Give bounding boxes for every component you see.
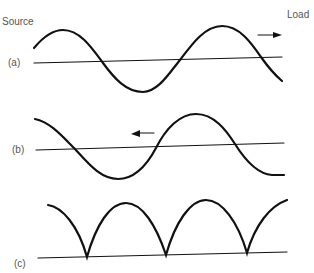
wave-a (34, 26, 282, 92)
arrowhead-right-icon (273, 32, 282, 38)
arrowhead-left-icon (131, 130, 140, 137)
axis-c (38, 252, 287, 258)
wave-c (48, 200, 287, 257)
wave-diagram (0, 0, 314, 273)
axis-a (34, 57, 282, 63)
